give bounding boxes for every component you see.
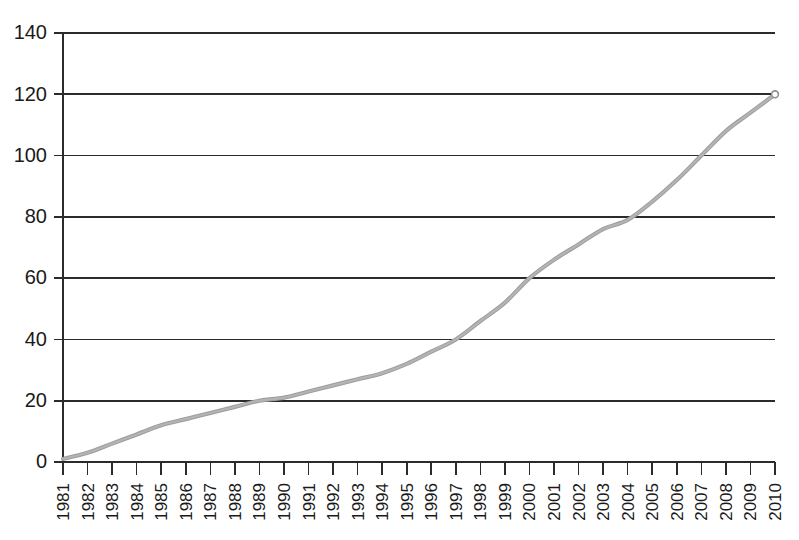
y-tick-label: 20 — [25, 389, 47, 411]
x-tick-label: 1989 — [250, 483, 269, 521]
x-tick-label: 1983 — [103, 483, 122, 521]
x-tick-label: 2002 — [570, 483, 589, 521]
x-tick-label: 2010 — [766, 483, 785, 521]
x-tick-label: 1993 — [349, 483, 368, 521]
x-tick-label: 2001 — [545, 483, 564, 521]
x-tick-label: 1994 — [373, 483, 392, 521]
y-tick-label: 140 — [14, 21, 47, 43]
x-tick-label: 2007 — [692, 483, 711, 521]
x-tick-label: 1985 — [152, 483, 171, 521]
gridlines — [63, 33, 775, 462]
x-tick-label: 2008 — [717, 483, 736, 521]
y-tick-label: 80 — [25, 205, 47, 227]
y-tick-label: 40 — [25, 328, 47, 350]
x-tick-label: 1981 — [54, 483, 73, 521]
y-tick-label: 100 — [14, 144, 47, 166]
x-tick-label: 2006 — [668, 483, 687, 521]
x-tick-label: 1984 — [128, 483, 147, 521]
x-axis-tick-marks — [63, 462, 775, 475]
y-tick-label: 0 — [36, 450, 47, 472]
series-line-1-highlight — [63, 94, 775, 459]
x-tick-label: 1986 — [177, 483, 196, 521]
y-axis-tick-marks — [54, 33, 63, 462]
x-tick-label: 2004 — [619, 483, 638, 521]
x-tick-label: 1992 — [324, 483, 343, 521]
x-axis-tick-labels: 1981198219831984198519861987198819891990… — [54, 483, 785, 521]
x-tick-label: 1990 — [275, 483, 294, 521]
series-line-1 — [63, 94, 775, 459]
x-tick-label: 1988 — [226, 483, 245, 521]
x-tick-label: 1987 — [201, 483, 220, 521]
x-tick-label: 1996 — [422, 483, 441, 521]
series-endpoint-marker — [772, 91, 779, 98]
x-tick-label: 2005 — [643, 483, 662, 521]
y-tick-label: 120 — [14, 83, 47, 105]
x-tick-label: 2003 — [594, 483, 613, 521]
x-tick-label: 1982 — [79, 483, 98, 521]
x-tick-label: 1997 — [447, 483, 466, 521]
x-tick-label: 1998 — [471, 483, 490, 521]
x-tick-label: 1995 — [398, 483, 417, 521]
chart-container: 020406080100120140 198119821983198419851… — [0, 0, 799, 540]
x-tick-label: 2000 — [520, 483, 539, 521]
x-tick-label: 1999 — [496, 483, 515, 521]
y-tick-label: 60 — [25, 266, 47, 288]
x-tick-label: 1991 — [300, 483, 319, 521]
line-chart: 020406080100120140 198119821983198419851… — [0, 0, 799, 540]
x-tick-label: 2009 — [741, 483, 760, 521]
y-axis-tick-labels: 020406080100120140 — [14, 21, 47, 472]
